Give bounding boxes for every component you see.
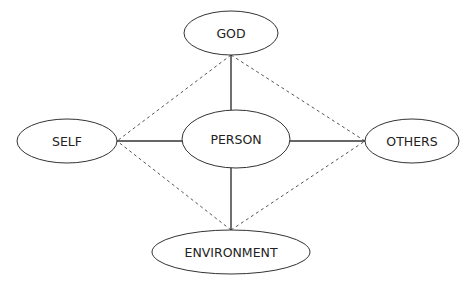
node-others: OTHERS	[365, 119, 459, 163]
node-person: PERSON	[182, 110, 290, 168]
node-god: GOD	[184, 11, 278, 55]
diagram-canvas: GOD SELF PERSON OTHERS ENVIRONMENT	[0, 0, 460, 281]
node-environment-label: ENVIRONMENT	[184, 245, 277, 260]
node-others-label: OTHERS	[386, 134, 437, 149]
node-self: SELF	[17, 119, 117, 163]
node-god-label: GOD	[216, 26, 245, 41]
node-environment: ENVIRONMENT	[152, 230, 310, 274]
node-self-label: SELF	[52, 134, 82, 149]
node-person-label: PERSON	[210, 132, 261, 147]
